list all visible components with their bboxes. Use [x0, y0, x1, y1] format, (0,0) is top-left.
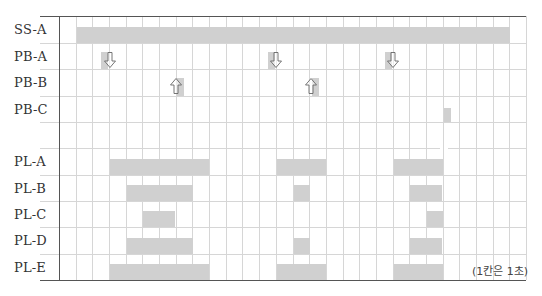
bar-pl-d [294, 238, 310, 254]
grid-hline [40, 254, 526, 255]
down-arrow-icon [104, 52, 116, 68]
bar-pl-b [410, 185, 442, 201]
row-label-pl-a: PL-A [14, 149, 58, 175]
row-label-pl-d: PL-D [14, 228, 58, 254]
row-label-pl-e: PL-E [14, 255, 58, 281]
bar-pb-c [444, 108, 451, 122]
grid-hline [40, 227, 526, 228]
bar-pl-e [277, 264, 326, 280]
bar-pl-c [143, 211, 175, 227]
bar-pl-a [277, 159, 326, 175]
grid-hline [40, 175, 526, 176]
top-border [40, 16, 526, 17]
up-arrow-icon [305, 78, 317, 94]
down-arrow-icon [387, 52, 399, 68]
scale-caption: (1칸은 1초) [472, 262, 528, 278]
grid-hline [40, 69, 526, 70]
grid-hline [40, 96, 526, 97]
row-label-ss-a: SS-A [14, 17, 58, 43]
bar-pl-b [294, 185, 310, 201]
grid-hline [40, 201, 526, 202]
down-arrow-icon [270, 52, 282, 68]
bar-ss-a [77, 27, 510, 43]
grid-vline [526, 16, 527, 280]
bar-pl-d [410, 238, 442, 254]
row-label-pb-a: PB-A [14, 44, 58, 70]
grid-hline [40, 43, 526, 44]
bar-pl-b [127, 185, 193, 201]
row-label-pl-c: PL-C [14, 202, 58, 228]
bar-pl-a [394, 159, 443, 175]
timing-diagram: SS-APB-APB-BPB-CPL-APL-BPL-CPL-DPL-E (1칸… [0, 0, 542, 296]
grid-hline [448, 148, 526, 149]
row-label-pb-b: PB-B [14, 70, 58, 96]
grid-hline [40, 122, 526, 123]
grid-hline [40, 148, 440, 149]
bar-pl-d [127, 238, 193, 254]
bar-pl-e [110, 264, 209, 280]
row-label-pb-c: PB-C [14, 97, 58, 123]
label-divider [59, 16, 60, 280]
bar-pl-a [110, 159, 209, 175]
bottom-border [40, 280, 526, 281]
bar-pl-c [427, 211, 443, 227]
up-arrow-icon [170, 78, 182, 94]
bar-pl-e [394, 264, 443, 280]
grid-vline [443, 16, 444, 280]
row-label-pl-b: PL-B [14, 176, 58, 202]
